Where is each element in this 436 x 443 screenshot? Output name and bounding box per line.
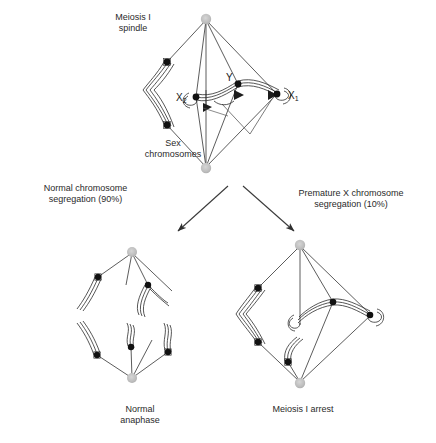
label-x1-chromosome: X1 — [288, 90, 299, 101]
anaphase-upper-kinetochores — [95, 274, 151, 288]
label-normal-chromosome-segregation: Normal chromosome segregation (90%) — [8, 183, 163, 205]
label-premature-x-chromosome-segregation: Premature X chromosome segregation (10%) — [272, 188, 430, 210]
anaphase-upper-fibers — [98, 253, 172, 291]
label-x2-letter: X — [176, 92, 183, 103]
spindle-pole-bottom — [201, 163, 211, 173]
arrest-pole-bottom — [295, 378, 305, 388]
anaphase-upper-chromosomes — [77, 277, 169, 317]
autosome-bivalent-top — [143, 62, 174, 127]
panel-meiosis-i-arrest — [236, 240, 384, 388]
anaphase-lower-pole — [127, 373, 137, 383]
arrest-autosome-bivalent — [236, 287, 265, 344]
arrest-fibers-bottom — [258, 302, 371, 382]
label-x1-letter: X — [288, 90, 295, 101]
label-sex-chromosomes: Sex chromosomes — [118, 138, 228, 160]
spindle-pole-top — [201, 14, 211, 24]
arrest-kinetochores — [255, 285, 374, 366]
arrest-fibers-top — [258, 246, 371, 325]
anaphase-lower-kinetochores — [94, 344, 171, 358]
arrest-pole-top — [295, 240, 305, 250]
meiosis-figure — [0, 0, 436, 443]
label-meiosis-i-spindle: Meiosis I spindle — [78, 12, 188, 34]
anaphase-upper-pole — [127, 247, 137, 257]
sex-chromosome-leader-lines — [222, 99, 272, 134]
label-x2-chromosome: X2 — [176, 92, 187, 103]
panel-normal-anaphase — [77, 247, 172, 383]
label-x2-subscript: 2 — [183, 97, 187, 104]
label-normal-anaphase: Normal anaphase — [95, 404, 185, 426]
label-y-chromosome: Y — [226, 72, 233, 83]
label-meiosis-i-arrest: Meiosis I arrest — [248, 404, 358, 415]
pairing-region-pointer-lines — [203, 108, 228, 116]
label-x1-subscript: 1 — [295, 95, 299, 102]
arrow-to-normal-segregation — [178, 186, 228, 231]
anaphase-lower-chromosomes — [77, 321, 171, 355]
